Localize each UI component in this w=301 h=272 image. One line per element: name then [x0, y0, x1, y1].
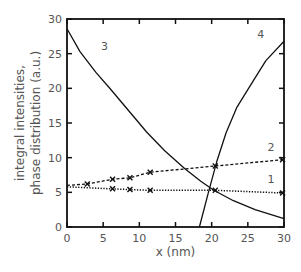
x-tick-label: 5: [100, 232, 107, 245]
y-tick-label: 0: [55, 221, 62, 234]
curve-label-4: 4: [257, 28, 264, 41]
y-tick-label: 25: [48, 48, 62, 61]
plot-frame: [67, 19, 284, 227]
y-tick-labels: 051015202530: [48, 13, 62, 234]
y-axis-title-line1: integral intensities,: [13, 65, 27, 181]
y-tick-label: 10: [48, 152, 62, 165]
curve-label-1: 1: [267, 173, 274, 186]
plot-lines: [67, 29, 284, 227]
series-4-line: [199, 41, 284, 227]
x-marker-icon: [110, 186, 115, 191]
x-tick-label: 25: [241, 232, 255, 245]
series-1-line: [67, 187, 283, 193]
y-tick-label: 15: [48, 117, 62, 130]
curve-label-3: 3: [101, 40, 108, 53]
series-3-line: [67, 29, 284, 219]
y-axis-title-line2: phase distribution (a.u.): [29, 51, 43, 195]
y-tick-label: 30: [48, 13, 62, 26]
x-tick-label: 15: [169, 232, 183, 245]
y-tick-label: 5: [55, 186, 62, 199]
x-axis-title: x (nm): [156, 245, 196, 259]
x-tick-label: 0: [64, 232, 71, 245]
x-tick-labels: 051015202530: [64, 232, 292, 245]
chart: 1234 051015202530 051015202530 x (nm) in…: [0, 0, 301, 272]
x-tick-label: 20: [205, 232, 219, 245]
y-tick-label: 20: [48, 82, 62, 95]
x-tick-label: 30: [277, 232, 291, 245]
axis-ticks: [67, 19, 284, 227]
series-2-line: [67, 160, 283, 186]
curve-label-2: 2: [267, 141, 274, 154]
curve-labels: 1234: [101, 28, 274, 187]
x-tick-label: 10: [132, 232, 146, 245]
